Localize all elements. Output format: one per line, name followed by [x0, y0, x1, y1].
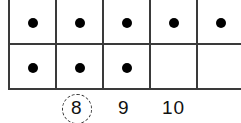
choice-8[interactable]: 8 — [71, 97, 82, 119]
grid-horizontal-line — [8, 43, 241, 45]
counter-dot — [169, 18, 179, 28]
counter-dot — [75, 63, 85, 73]
counter-dot — [28, 63, 38, 73]
grid-vertical-line — [55, 0, 57, 90]
counter-dot — [75, 18, 85, 28]
counter-dot — [28, 18, 38, 28]
choice-9[interactable]: 9 — [118, 97, 129, 119]
grid-horizontal-line — [8, 88, 241, 90]
grid-vertical-line — [8, 0, 10, 90]
counter-dot — [122, 63, 132, 73]
choice-10[interactable]: 10 — [162, 97, 185, 119]
ten-frame — [8, 0, 241, 90]
grid-vertical-line — [102, 0, 104, 90]
number-choices: 8 9 10 — [0, 95, 241, 123]
counter-dot — [122, 18, 132, 28]
grid-vertical-line — [196, 0, 198, 90]
grid-vertical-line — [149, 0, 151, 90]
counter-dot — [216, 18, 226, 28]
